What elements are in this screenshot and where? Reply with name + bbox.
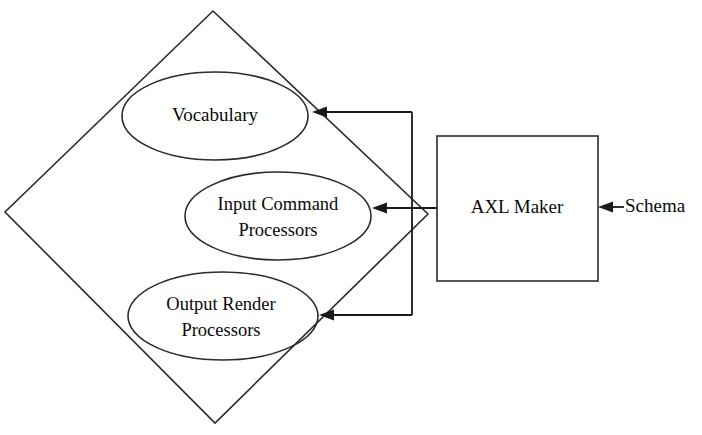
connector-axl-maker-to-vocabulary	[312, 107, 412, 118]
arrowhead-vocabulary	[312, 107, 327, 118]
node-input-command-processors-label-line1: Input Command	[218, 194, 340, 214]
node-input-command-processors-shape	[185, 172, 371, 260]
arrowhead-axl-maker	[598, 202, 613, 213]
node-output-render-processors-shape	[128, 272, 318, 360]
connector-schema-to-axl-maker	[598, 202, 624, 213]
node-axl-maker-label: AXL Maker	[471, 196, 564, 217]
node-vocabulary-label: Vocabulary	[172, 104, 259, 125]
node-input-command-processors-label-line2: Processors	[238, 220, 317, 240]
diagram-canvas: Vocabulary Input Command Processors Outp…	[0, 0, 702, 435]
connector-axl-maker-to-input-command-processors	[372, 203, 437, 214]
external-label-schema: Schema	[625, 195, 686, 216]
node-output-render-processors-label-line2: Processors	[181, 320, 260, 340]
diagram-svg: Vocabulary Input Command Processors Outp…	[0, 0, 702, 435]
node-output-render-processors-label-line1: Output Render	[166, 294, 275, 314]
connector-axl-maker-to-output-render-processors	[319, 310, 412, 321]
arrowhead-input-command	[372, 203, 387, 214]
